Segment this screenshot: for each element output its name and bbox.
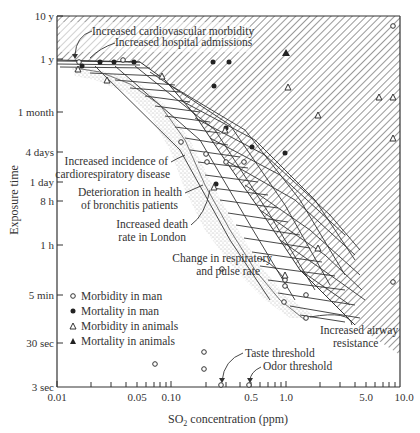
annotation-cardioresp-2: cardiorespiratory disease xyxy=(55,168,170,181)
annotation-bronchitis-2: of bronchitis patients xyxy=(81,199,179,212)
annotation-odor: Odor threshold xyxy=(263,360,333,372)
x-ticks xyxy=(57,381,395,387)
y-tick-10y: 10 y xyxy=(35,10,55,22)
y-tick-labels: 10 y 1 y 1 month 4 days 1 day 8 h 1 h 5 … xyxy=(18,10,55,393)
legend-item-morbidity-man: Morbidity in man xyxy=(71,290,163,303)
y-tick-8h: 8 h xyxy=(40,195,54,207)
y-tick-1h: 1 h xyxy=(40,239,54,251)
y-tick-5min: 5 min xyxy=(29,289,55,301)
annotation-london-2: rate in London xyxy=(118,231,186,243)
y-axis-title: Exposure time xyxy=(7,165,21,235)
legend-item-mortality-animals: Mortality in animals xyxy=(70,335,175,348)
y-tick-30sec: 30 sec xyxy=(26,337,54,349)
x-tick-5.0: 5.0 xyxy=(359,391,373,403)
x-tick-labels: 0.01 0.05 0.10 0.5 1.0 5.0 10.0 xyxy=(47,391,414,403)
x-axis-title: SO2 concentration (ppm) xyxy=(168,412,288,428)
svg-text:Mortality in man: Mortality in man xyxy=(81,305,159,318)
annotation-airway-2: resistance xyxy=(333,337,378,349)
x-tick-10.0: 10.0 xyxy=(394,391,414,403)
x-tick-0.10: 0.10 xyxy=(161,391,181,403)
x-tick-0.01: 0.01 xyxy=(47,391,66,403)
svg-text:Morbidity in animals: Morbidity in animals xyxy=(81,320,179,333)
y-tick-1day: 1 day xyxy=(30,176,55,188)
annotation-bronchitis-1: Deterioration in health xyxy=(78,186,182,198)
annotation-hospital: Increased hospital admissions xyxy=(115,36,253,49)
legend-item-morbidity-animals: Morbidity in animals xyxy=(70,320,179,333)
y-tick-4days: 4 days xyxy=(26,146,54,158)
svg-text:Mortality in animals: Mortality in animals xyxy=(81,335,175,348)
x-tick-0.05: 0.05 xyxy=(127,391,147,403)
annotation-airway-1: Increased airway xyxy=(320,324,398,337)
legend-item-mortality-man: Mortality in man xyxy=(71,305,160,318)
annotation-london-1: Increased death xyxy=(116,218,188,230)
so2-exposure-chart: 10 y 1 y 1 month 4 days 1 day 8 h 1 h 5 … xyxy=(0,0,420,433)
x-tick-1.0: 1.0 xyxy=(279,391,293,403)
annotation-cardioresp-1: Increased incidence of xyxy=(65,155,169,167)
legend: Morbidity in man Mortality in man Morbid… xyxy=(70,290,179,348)
annotation-taste: Taste threshold xyxy=(245,347,315,359)
y-tick-1month: 1 month xyxy=(18,106,55,118)
x-tick-0.5: 0.5 xyxy=(244,391,258,403)
annotation-respiratory-1: Change in respiratory xyxy=(172,252,272,265)
svg-text:Morbidity in man: Morbidity in man xyxy=(81,290,162,303)
annotation-respiratory-2: and pulse rate xyxy=(196,265,260,278)
y-tick-1y: 1 y xyxy=(40,53,54,65)
